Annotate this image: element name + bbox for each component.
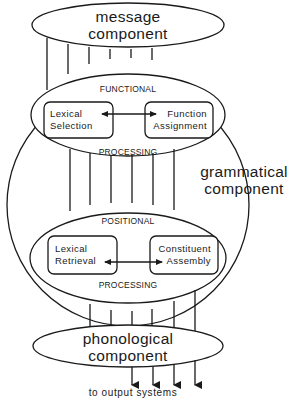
- functional-title: FUNCTIONAL: [98, 84, 158, 94]
- grammatical-line1: grammatical: [194, 163, 293, 180]
- function-assignment-line1: Function: [150, 108, 207, 120]
- lexical-selection-line1: Lexical: [50, 108, 93, 120]
- positional-title: POSITIONAL: [98, 216, 158, 226]
- message-component-label: message component: [78, 8, 178, 42]
- constituent-assembly-line1: Constituent: [151, 243, 211, 255]
- functional-processing-label: PROCESSING: [98, 147, 158, 157]
- constituent-assembly-label: Constituent Assembly: [151, 243, 211, 267]
- lexical-selection-label: Lexical Selection: [50, 108, 93, 132]
- constituent-assembly-line2: Assembly: [151, 255, 211, 267]
- phonological-component-label: phonological component: [68, 330, 188, 364]
- message-line1: message: [78, 8, 178, 25]
- function-assignment-line2: Assignment: [150, 120, 207, 132]
- functional-to-positional-connectors: [70, 149, 174, 211]
- function-assignment-label: Function Assignment: [150, 108, 207, 132]
- lexical-retrieval-label: Lexical Retrieval: [55, 243, 96, 267]
- grammatical-component-label: grammatical component: [194, 163, 293, 197]
- phonological-line2: component: [68, 347, 188, 364]
- phonological-line1: phonological: [68, 330, 188, 347]
- positional-processing-label: PROCESSING: [98, 280, 158, 290]
- output-systems-label: to output systems: [78, 387, 188, 398]
- message-line2: component: [78, 25, 178, 42]
- grammatical-line2: component: [194, 180, 293, 197]
- lexical-retrieval-line1: Lexical: [55, 243, 96, 255]
- lexical-selection-line2: Selection: [50, 120, 93, 132]
- lexical-retrieval-line2: Retrieval: [55, 255, 96, 267]
